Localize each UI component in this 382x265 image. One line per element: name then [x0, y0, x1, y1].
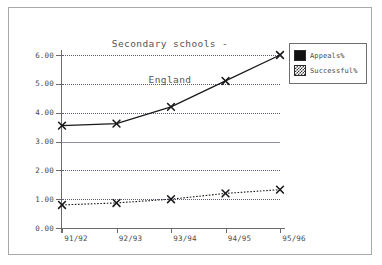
legend-swatch-appeals-icon	[294, 50, 306, 61]
legend-item-successful[interactable]: Successful%	[294, 63, 363, 78]
legend-swatch-successful-icon	[294, 65, 306, 76]
series-markers-appeals	[59, 52, 284, 129]
series-line-appeals	[62, 55, 280, 126]
series-layer	[0, 0, 382, 265]
legend-label-appeals: Appeals%	[310, 52, 345, 60]
chart-figure: Secondary schools - England 6.00 5.00 4.…	[0, 0, 382, 265]
legend-item-appeals[interactable]: Appeals%	[294, 48, 363, 63]
legend-label-successful: Successful%	[310, 67, 357, 75]
chart-legend: Appeals% Successful%	[289, 43, 367, 84]
series-line-successful	[62, 190, 280, 205]
series-markers-successful	[59, 186, 284, 208]
